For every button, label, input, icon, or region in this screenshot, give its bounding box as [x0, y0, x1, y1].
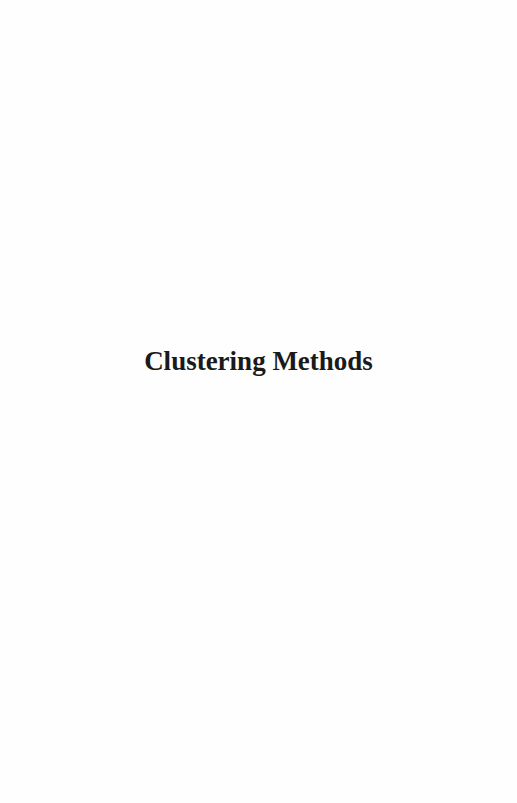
document-page: Clustering Methods [0, 0, 517, 803]
page-title: Clustering Methods [0, 343, 517, 379]
